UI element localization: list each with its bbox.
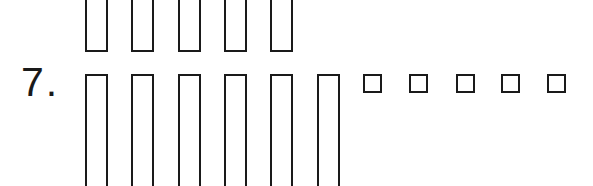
top-rectangle-2 <box>131 0 154 52</box>
small-square-2 <box>409 74 428 93</box>
tall-rectangle-3 <box>178 74 201 186</box>
small-square-3 <box>456 74 475 93</box>
tall-rectangle-4 <box>224 74 247 186</box>
top-rectangle-5 <box>270 0 293 52</box>
small-square-1 <box>363 74 382 93</box>
tall-rectangle-5 <box>270 74 293 186</box>
top-rectangle-1 <box>85 0 108 52</box>
tall-rectangle-2 <box>131 74 154 186</box>
top-rectangle-3 <box>178 0 201 52</box>
problem-label: 7. <box>21 62 59 103</box>
tall-rectangle-6 <box>317 74 340 186</box>
tall-rectangle-1 <box>85 74 108 186</box>
small-square-4 <box>501 74 520 93</box>
small-square-5 <box>547 74 566 93</box>
top-rectangle-4 <box>224 0 247 52</box>
